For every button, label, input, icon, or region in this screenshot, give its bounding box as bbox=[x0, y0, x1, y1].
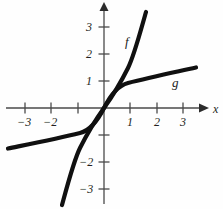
y-axis-arrow-icon bbox=[100, 2, 109, 11]
y-tick-label-neg2: −2 bbox=[79, 156, 94, 168]
y-tick-label-3: 3 bbox=[86, 21, 92, 33]
function-graph-figure: −3 −2 1 2 3 3 2 1 −2 −3 f g x bbox=[0, 0, 223, 209]
graph-canvas bbox=[0, 0, 223, 209]
x-tick-label-neg2: −2 bbox=[43, 116, 58, 128]
y-tick-label-2: 2 bbox=[86, 48, 92, 60]
x-tick-label-neg3: −3 bbox=[17, 116, 32, 128]
y-tick-label-1: 1 bbox=[86, 75, 92, 87]
curve-label-f: f bbox=[125, 35, 129, 48]
y-tick-label-neg3: −3 bbox=[79, 183, 94, 195]
curve-label-g: g bbox=[172, 76, 179, 89]
x-tick-label-1: 1 bbox=[127, 116, 133, 128]
x-tick-label-2: 2 bbox=[154, 116, 160, 128]
x-axis-label: x bbox=[213, 103, 218, 115]
x-axis-arrow-icon bbox=[199, 104, 209, 113]
x-tick-label-3: 3 bbox=[180, 116, 186, 128]
